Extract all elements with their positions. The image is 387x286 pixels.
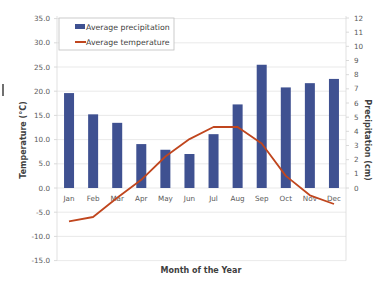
right-tick-label: 4 (354, 127, 359, 136)
left-tick-label: -5.0 (36, 208, 50, 217)
x-tick-label: Oct (280, 194, 293, 203)
x-tick-label: Aug (231, 194, 245, 203)
right-tick-label: 9 (354, 56, 359, 65)
precipitation-bar (305, 83, 315, 188)
left-tick-label: 25.0 (34, 63, 50, 72)
left-tick-label: -15.0 (31, 256, 50, 265)
right-tick-label: 8 (354, 70, 359, 79)
x-tick-label: Jun (183, 194, 195, 203)
right-tick-label: 3 (354, 141, 359, 150)
temperature-line (69, 127, 334, 221)
left-tick-label: 5.0 (39, 159, 51, 168)
precipitation-bar (233, 104, 243, 188)
left-tick-label: 0.0 (39, 184, 51, 193)
right-tick-label: 6 (354, 99, 359, 108)
precipitation-bar (64, 93, 74, 188)
x-axis-title: Month of the Year (161, 266, 242, 275)
right-tick-label: 5 (354, 113, 359, 122)
precipitation-bar (257, 65, 267, 188)
legend: Average precipitation Average temperatur… (59, 18, 174, 50)
right-tick-label: 11 (354, 28, 363, 37)
precipitation-bar (184, 154, 194, 188)
left-axis-title: Temperature (°C) (19, 101, 28, 179)
x-axis-labels: JanFebMarAprMayJunJulAugSepOctNovDec (62, 194, 340, 203)
left-tick-label: 30.0 (34, 38, 50, 47)
precipitation-bar (281, 87, 291, 188)
left-tick-label: -10.0 (31, 232, 50, 241)
right-tick-label: 12 (354, 14, 363, 23)
right-axis-title: Precipitation (cm) (363, 99, 372, 180)
right-tick-label: 1 (354, 169, 359, 178)
legend-precipitation-label: Average precipitation (86, 23, 170, 32)
right-tick-label: 2 (354, 155, 359, 164)
left-tick-label: 20.0 (34, 87, 50, 96)
x-tick-label: May (158, 194, 174, 203)
right-tick-label: 0 (354, 184, 359, 193)
x-tick-label: Jan (62, 194, 74, 203)
legend-temperature-label: Average temperature (86, 38, 170, 47)
right-tick-label: 7 (354, 84, 359, 93)
left-tick-label: 15.0 (34, 111, 50, 120)
x-tick-label: Jul (208, 194, 218, 203)
x-tick-label: Feb (87, 194, 100, 203)
x-tick-label: Apr (135, 194, 147, 203)
precipitation-temperature-chart: 35.030.025.020.015.010.05.00.0-5.0-10.0-… (0, 0, 387, 286)
x-tick-label: Sep (255, 194, 269, 203)
precipitation-bars (64, 65, 339, 188)
left-tick-label: 35.0 (34, 14, 50, 23)
precipitation-bar (112, 123, 122, 188)
left-axis-ticks: 35.030.025.020.015.010.05.00.0-5.0-10.0-… (31, 14, 50, 265)
precipitation-bar (88, 114, 98, 188)
legend-precipitation-swatch (75, 24, 85, 29)
precipitation-bar (209, 134, 219, 188)
left-tick-label: 10.0 (34, 135, 50, 144)
right-axis-ticks: 1211109876543210 (346, 14, 364, 193)
precipitation-bar (329, 79, 339, 188)
right-tick-label: 10 (354, 42, 364, 51)
